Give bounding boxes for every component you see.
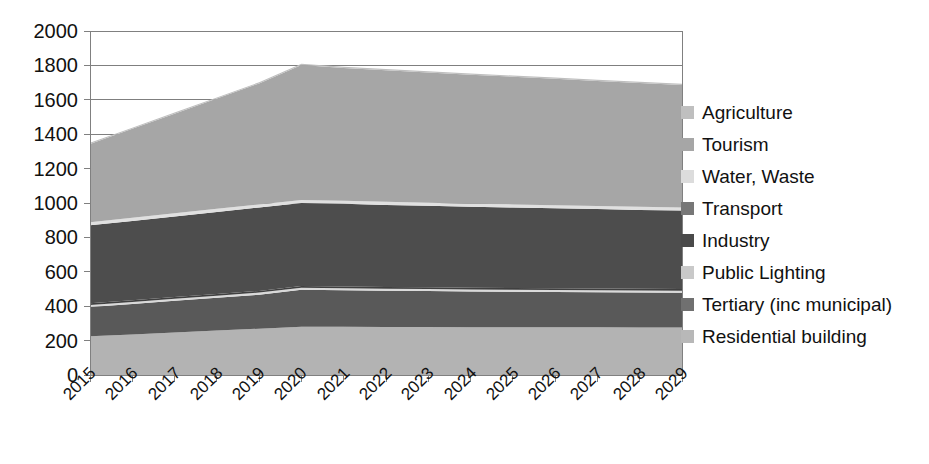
legend-label: Public Lighting [702, 263, 826, 282]
legend-label: Tertiary (inc municipal) [702, 295, 892, 314]
legend-item[interactable]: Agriculture [681, 96, 927, 128]
y-tick-label: 1000 [34, 193, 79, 213]
legend-swatch-icon [681, 106, 694, 119]
legend-item[interactable]: Tertiary (inc municipal) [681, 288, 927, 320]
stacked-area-chart: 2000180016001400120010008006004002000 20… [0, 0, 929, 464]
y-tick-label: 1400 [34, 124, 79, 144]
legend-label: Agriculture [702, 103, 793, 122]
area-series-group [90, 64, 682, 375]
legend-item[interactable]: Residential building [681, 320, 927, 352]
y-tick-label: 600 [45, 262, 78, 282]
legend-swatch-icon [681, 330, 694, 343]
legend-item[interactable]: Transport [681, 192, 927, 224]
legend-item[interactable]: Public Lighting [681, 256, 927, 288]
legend-label: Tourism [702, 135, 769, 154]
y-tick-label: 800 [45, 227, 78, 247]
legend-item[interactable]: Tourism [681, 128, 927, 160]
legend-item[interactable]: Water, Waste [681, 160, 927, 192]
y-tick-label: 1600 [34, 90, 79, 110]
area-series [90, 65, 682, 222]
legend-item[interactable]: Industry [681, 224, 927, 256]
legend-swatch-icon [681, 298, 694, 311]
y-tick-label: 2000 [34, 21, 79, 41]
legend-label: Residential building [702, 327, 867, 346]
legend-label: Transport [702, 199, 783, 218]
legend-label: Water, Waste [702, 167, 815, 186]
legend-swatch-icon [681, 266, 694, 279]
y-tick-label: 400 [45, 296, 78, 316]
legend-swatch-icon [681, 170, 694, 183]
legend-swatch-icon [681, 234, 694, 247]
chart-legend: AgricultureTourismWater, WasteTransportI… [681, 96, 927, 352]
y-tick-label: 1800 [34, 55, 79, 75]
y-tick-label: 1200 [34, 159, 79, 179]
legend-label: Industry [702, 231, 770, 250]
y-tick-label: 200 [45, 331, 78, 351]
legend-swatch-icon [681, 202, 694, 215]
legend-swatch-icon [681, 138, 694, 151]
